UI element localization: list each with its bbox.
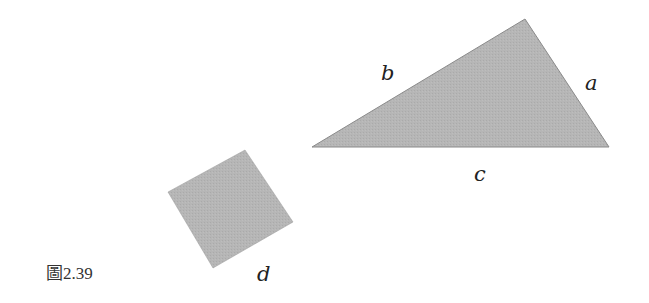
side-label-a: a — [585, 71, 598, 95]
side-label-c: c — [474, 162, 486, 186]
triangle — [312, 19, 609, 147]
side-label-d: d — [257, 262, 270, 286]
side-label-b: b — [381, 61, 394, 85]
square — [168, 150, 293, 268]
figure-caption: 圖2.39 — [46, 259, 93, 284]
geometry-figure: b a c d — [0, 0, 649, 303]
